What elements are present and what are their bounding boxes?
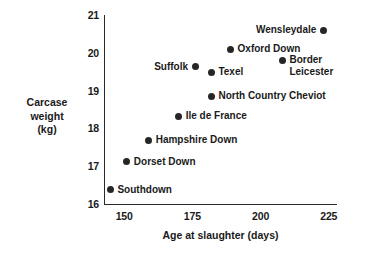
x-tick-label: 200 [252, 210, 269, 222]
data-point-label: Ile de France [186, 111, 247, 123]
data-point-label: Hampshire Down [156, 135, 238, 147]
data-point [208, 93, 215, 100]
y-tick-label: 18 [88, 122, 99, 134]
y-axis-title-line-3: (kg) [6, 123, 88, 137]
y-tick-label: 21 [88, 9, 99, 21]
y-tick-label: 20 [88, 47, 99, 59]
data-point [145, 137, 152, 144]
x-tick-label: 225 [320, 210, 337, 222]
y-axis-title-line-2: weight [6, 110, 88, 124]
data-point [227, 46, 234, 53]
data-point-label: North Country Cheviot [218, 91, 325, 103]
data-point [123, 158, 130, 165]
y-tick-label: 16 [88, 198, 99, 210]
data-point-label: Dorset Down [134, 156, 196, 168]
scatter-chart: Carcase weight (kg) 16171819202115017520… [0, 0, 365, 256]
y-tick-label: 19 [88, 85, 99, 97]
x-tick-label: 175 [184, 210, 201, 222]
data-point-label: Border Leicester [289, 54, 333, 77]
x-axis-title: Age at slaughter (days) [104, 229, 337, 241]
data-point-label: Suffolk [154, 61, 188, 73]
y-axis-title-line-1: Carcase [6, 96, 88, 110]
x-tick-label: 150 [116, 210, 133, 222]
data-point [208, 69, 215, 76]
data-point-label: Wensleydale [256, 24, 316, 36]
data-point [320, 27, 327, 34]
data-point [107, 186, 114, 193]
plot-area: 161718192021150175200225SouthdownDorset … [104, 15, 337, 205]
data-point [192, 63, 199, 70]
y-axis-title: Carcase weight (kg) [6, 96, 88, 137]
y-tick-label: 17 [88, 160, 99, 172]
data-point [175, 113, 182, 120]
data-point-label: Southdown [117, 184, 171, 196]
data-point-label: Texel [218, 67, 243, 79]
data-point [279, 57, 286, 64]
